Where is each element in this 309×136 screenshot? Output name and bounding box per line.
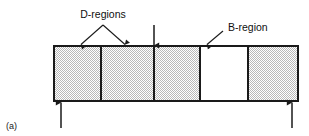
d-regions-leader-right-line: [103, 25, 125, 45]
b-region-leader-line: [207, 31, 223, 45]
segment-b-region: [200, 46, 248, 101]
segment-d-region-2: [101, 46, 154, 101]
d-regions-leader: [81, 25, 125, 45]
segment-d-region-4: [248, 46, 298, 101]
segment-d-region-1: [54, 46, 101, 101]
figure-caption: (a): [6, 121, 17, 131]
beam-segments: [54, 46, 298, 101]
beam-diagram-svg: D-regions B-region (a): [0, 0, 309, 136]
segment-d-region-3: [154, 46, 200, 101]
b-region-label: B-region: [228, 21, 268, 33]
d-regions-label: D-regions: [80, 8, 126, 20]
figure-container: D-regions B-region (a): [0, 0, 309, 136]
d-regions-leader-left-line: [81, 25, 103, 45]
